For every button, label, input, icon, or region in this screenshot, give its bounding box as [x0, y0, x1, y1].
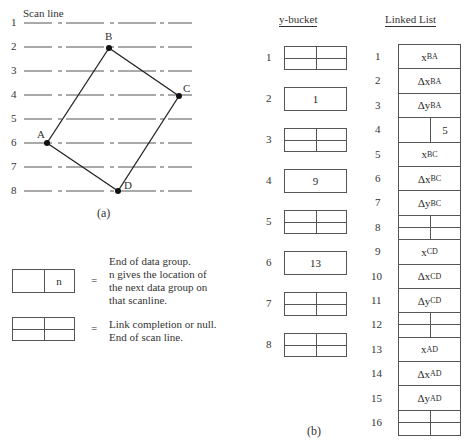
y-bucket-value: 9: [285, 170, 346, 192]
legend-equals-1: =: [91, 274, 97, 286]
linked-list-index: 4: [375, 123, 381, 135]
linked-list-title: Linked List: [385, 13, 436, 27]
scan-line-number: 1: [11, 16, 17, 28]
y-bucket-value: 1: [285, 88, 346, 110]
scan-line-number: 6: [11, 136, 17, 148]
y-bucket-title: y-bucket: [279, 13, 317, 27]
y-bucket-index: 7: [266, 297, 272, 309]
linked-list-row: 5: [399, 118, 460, 142]
linked-list-row: ΔyAD: [399, 386, 460, 410]
y-bucket-index: 2: [266, 92, 272, 104]
scan-line-number: 8: [11, 184, 17, 196]
linked-list-link-value: 5: [430, 118, 460, 141]
linked-list-index: 16: [371, 416, 382, 428]
linked-list-row: xBA: [399, 45, 460, 69]
vertex-label-a: A: [37, 128, 45, 140]
scan-line-number: 5: [11, 112, 17, 124]
scan-line-number: 7: [11, 160, 17, 172]
linked-list-row: ΔxBA: [399, 69, 460, 93]
linked-list-row: ΔyBC: [399, 191, 460, 215]
y-bucket-cell: [284, 210, 347, 234]
vertex-label-b: B: [105, 30, 112, 42]
linked-list-value: ΔyBC: [399, 191, 460, 214]
scan-line-number: 3: [11, 64, 17, 76]
legend-end-group-cell: n: [12, 269, 75, 293]
linked-list-value: ΔxCD: [399, 265, 460, 288]
linked-list-value: ΔxBC: [399, 167, 460, 190]
y-bucket-cell: [284, 333, 347, 357]
y-bucket-cell: [284, 46, 347, 70]
linked-list-index: 2: [375, 74, 381, 86]
y-bucket-index: 8: [266, 338, 272, 350]
linked-list-index: 10: [371, 270, 382, 282]
linked-list-row: [399, 216, 460, 240]
legend-equals-2: =: [91, 322, 97, 334]
linked-list-value: xAD: [399, 338, 460, 361]
linked-list-row: ΔxAD: [399, 362, 460, 386]
linked-list-index: 8: [375, 221, 381, 233]
linked-list-row: ΔyBA: [399, 94, 460, 118]
y-bucket-index: 1: [266, 51, 272, 63]
linked-list-value: ΔxAD: [399, 362, 460, 385]
y-bucket-index: 5: [266, 215, 272, 227]
y-bucket-cell: 1: [284, 87, 347, 111]
linked-list-row: xAD: [399, 338, 460, 362]
linked-list-index: 6: [375, 172, 381, 184]
linked-list-row: xCD: [399, 240, 460, 264]
y-bucket-index: 4: [266, 174, 272, 186]
linked-list-row: ΔxCD: [399, 265, 460, 289]
linked-list-index: 11: [371, 294, 382, 306]
linked-list-index: 7: [375, 196, 381, 208]
linked-list-value: ΔyBA: [399, 94, 460, 117]
legend-n-value: n: [44, 270, 74, 292]
y-bucket-index: 6: [266, 256, 272, 268]
linked-list-value: ΔyCD: [399, 289, 460, 312]
linked-list-index: 9: [375, 245, 381, 257]
linked-list-index: 13: [371, 343, 382, 355]
linked-list-row: ΔyCD: [399, 289, 460, 313]
linked-list-index: 5: [375, 148, 381, 160]
vertex-label-d: D: [124, 179, 132, 191]
linked-list-index: 1: [375, 50, 381, 62]
scan-line-number: 2: [11, 40, 17, 52]
linked-list-row: ΔxBC: [399, 167, 460, 191]
y-bucket-cell: 13: [284, 251, 347, 275]
linked-list-value: xBC: [399, 143, 460, 166]
linked-list-index: 3: [375, 99, 381, 111]
scan-line-number: 4: [11, 88, 17, 100]
legend-null-text: Link completion or null. End of scan lin…: [109, 318, 217, 344]
linked-list-value: xCD: [399, 240, 460, 263]
y-bucket-cell: [284, 292, 347, 316]
linked-list-row: [399, 411, 460, 435]
linked-list: xBAΔxBAΔyBA5xBCΔxBCΔyBCxCDΔxCDΔyCDxADΔxA…: [398, 44, 461, 436]
linked-list-value: ΔyAD: [399, 386, 460, 409]
y-bucket-index: 3: [266, 133, 272, 145]
y-bucket-cell: 9: [284, 169, 347, 193]
polygon-scanline-figure: [0, 0, 230, 200]
linked-list-row: [399, 313, 460, 337]
caption-a: (a): [97, 206, 110, 221]
legend-end-group-text: End of data group. n gives the location …: [109, 255, 207, 307]
linked-list-value: ΔxBA: [399, 69, 460, 92]
linked-list-row: xBC: [399, 143, 460, 167]
vertex-label-c: C: [183, 82, 190, 94]
linked-list-index: 12: [371, 318, 382, 330]
linked-list-index: 14: [371, 367, 382, 379]
y-bucket-value: 13: [285, 252, 346, 274]
linked-list-value: xBA: [399, 45, 460, 68]
linked-list-index: 15: [371, 392, 382, 404]
legend-null-cell: [12, 317, 75, 341]
y-bucket-cell: [284, 128, 347, 152]
caption-b: (b): [307, 424, 321, 439]
